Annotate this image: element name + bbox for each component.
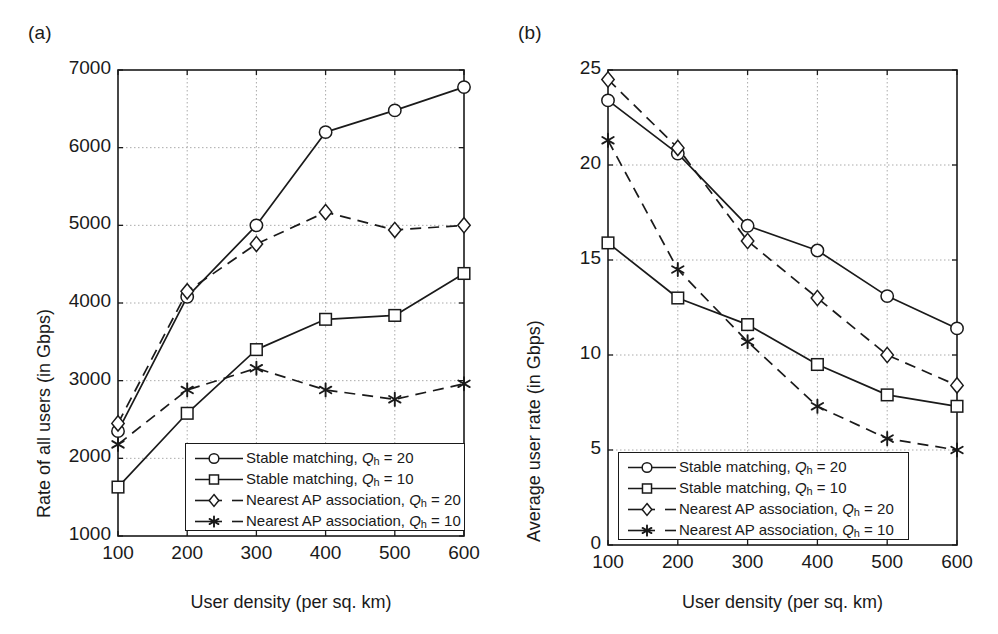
x-tick-label: 400 <box>291 542 361 564</box>
legend-label: Nearest AP association, Qh = 10 <box>246 513 461 530</box>
y-tick-label: 10 <box>531 342 601 364</box>
legend-sample-square <box>192 469 246 490</box>
legend-label: Stable matching, Qh = 10 <box>246 471 413 488</box>
y-tick-label: 3000 <box>41 368 111 390</box>
y-tick-label: 6000 <box>41 135 111 157</box>
x-tick-label: 100 <box>83 542 153 564</box>
y-axis-title-a: Rate of all users (in Gbps) <box>34 309 55 518</box>
y-tick-label: 20 <box>531 152 601 174</box>
x-tick-label: 200 <box>152 542 222 564</box>
legend-label: Nearest AP association, Qh = 20 <box>246 492 461 509</box>
y-tick-label: 7000 <box>41 57 111 79</box>
legend-sample-circle <box>192 448 246 469</box>
legend-sample-circle <box>625 457 679 478</box>
legend-label: Stable matching, Qh = 20 <box>246 450 413 467</box>
legend-sample-square <box>625 478 679 499</box>
legend-b-item-diamond: Nearest AP association, Qh = 20 <box>625 499 902 520</box>
legend-b: Stable matching, Qh = 20Stable matching,… <box>618 452 909 540</box>
x-tick-label: 300 <box>713 551 783 573</box>
legend-sample-diamond <box>625 499 679 520</box>
legend-label: Nearest AP association, Qh = 10 <box>679 522 894 539</box>
figure-root: (a) User density (per sq. km) Rate of al… <box>0 0 998 634</box>
legend-b-item-asterisk: Nearest AP association, Qh = 10 <box>625 520 902 541</box>
legend-a-item-diamond: Nearest AP association, Qh = 20 <box>192 490 458 511</box>
legend-b-item-circle: Stable matching, Qh = 20 <box>625 457 902 478</box>
legend-b-item-square: Stable matching, Qh = 10 <box>625 478 902 499</box>
legend-label: Nearest AP association, Qh = 20 <box>679 501 894 518</box>
legend-sample-diamond <box>192 490 246 511</box>
legend-a: Stable matching, Qh = 20Stable matching,… <box>185 443 465 531</box>
x-tick-label: 200 <box>643 551 713 573</box>
y-tick-label: 25 <box>531 57 601 79</box>
x-tick-label: 500 <box>852 551 922 573</box>
y-tick-label: 5000 <box>41 212 111 234</box>
legend-a-item-square: Stable matching, Qh = 10 <box>192 469 458 490</box>
x-axis-title-a: User density (per sq. km) <box>118 592 464 613</box>
y-tick-label: 5 <box>531 437 601 459</box>
y-tick-label: 2000 <box>41 445 111 467</box>
x-axis-title-b: User density (per sq. km) <box>608 592 957 613</box>
legend-sample-asterisk <box>192 511 246 532</box>
x-tick-label: 600 <box>429 542 499 564</box>
chart-panel-a: (a) User density (per sq. km) Rate of al… <box>0 0 500 634</box>
x-tick-label: 400 <box>782 551 852 573</box>
legend-label: Stable matching, Qh = 10 <box>679 480 846 497</box>
legend-sample-asterisk <box>625 520 679 541</box>
x-tick-label: 100 <box>573 551 643 573</box>
x-tick-label: 300 <box>221 542 291 564</box>
y-tick-label: 15 <box>531 247 601 269</box>
legend-a-item-asterisk: Nearest AP association, Qh = 10 <box>192 511 458 532</box>
x-tick-label: 500 <box>360 542 430 564</box>
x-tick-label: 600 <box>922 551 992 573</box>
y-tick-label: 4000 <box>41 290 111 312</box>
legend-label: Stable matching, Qh = 20 <box>679 459 846 476</box>
chart-panel-b: (b) User density (per sq. km) Average us… <box>490 0 998 634</box>
legend-a-item-circle: Stable matching, Qh = 20 <box>192 448 458 469</box>
